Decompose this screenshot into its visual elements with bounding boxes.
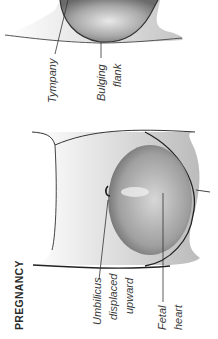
umbilicus-label-1: Umbilicus [92,277,103,325]
tympany-label: Tympany [47,59,58,103]
fetal-heart-label-1: Fetal [157,306,168,330]
umbilicus-label-3: upward [124,278,135,314]
section-title: PREGNANCY [13,260,25,330]
fetal-heart-label-2: heart [173,305,184,330]
bulging-flank-label-2: flank [112,64,123,87]
bulging-flank-label-1: Bulging [96,64,107,101]
umbilicus-label-2: displaced [108,274,119,320]
